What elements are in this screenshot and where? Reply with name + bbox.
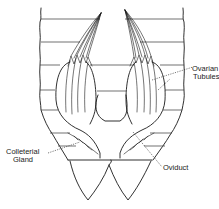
abdomen-outline	[40, 8, 185, 160]
label-gland: Gland	[6, 156, 39, 164]
label-ovarian-tubules: Ovarian Tubules	[192, 65, 219, 81]
segment-lines	[40, 19, 184, 146]
ovipositor-valves	[68, 160, 152, 200]
label-tubules: Tubules	[192, 73, 219, 81]
right-ovary	[120, 10, 165, 158]
label-colleterial-gland: Colleterial Gland	[6, 148, 39, 164]
reproductive-system-diagram: Ovarian Tubules Colleterial Gland Oviduc…	[0, 0, 219, 209]
diagram-canvas	[0, 0, 219, 209]
label-oviduct: Oviduct	[163, 164, 188, 172]
median-plate	[96, 95, 127, 121]
left-ovary	[56, 13, 101, 158]
